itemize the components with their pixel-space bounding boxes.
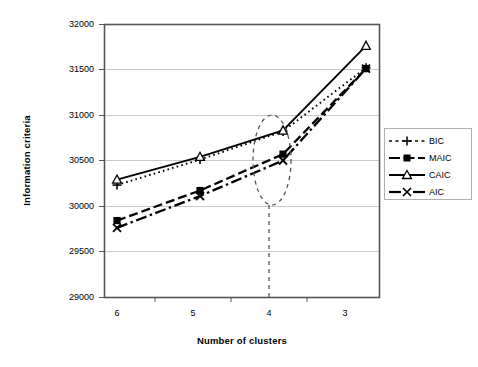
series-caic: [113, 41, 371, 183]
legend-item-maic: MAIC: [385, 149, 471, 166]
series-line-caic: [117, 46, 366, 180]
legend-key-maic: [388, 151, 426, 165]
series-line-bic: [117, 68, 366, 185]
legend-key-aic: [388, 185, 426, 199]
marker-maic-6: [113, 217, 120, 224]
gridlines: [104, 70, 379, 252]
marker-caic-3: [362, 41, 371, 49]
legend-key-caic: [388, 168, 426, 182]
chart-legend: BIC MAIC CAIC: [384, 128, 472, 200]
chart-figure: Information criteria 32000 31500 31000 3…: [0, 0, 478, 367]
y-axis-ticks: [99, 25, 104, 298]
marker-maic-4: [279, 151, 286, 158]
legend-item-bic: BIC: [385, 132, 471, 149]
legend-label-aic: AIC: [429, 187, 444, 197]
legend-item-aic: AIC: [385, 183, 471, 200]
legend-label-bic: BIC: [429, 136, 444, 146]
legend-label-caic: CAIC: [429, 170, 451, 180]
legend-key-bic: [388, 134, 426, 148]
series-line-aic: [117, 69, 366, 228]
legend-item-caic: CAIC: [385, 166, 471, 183]
legend-label-maic: MAIC: [429, 153, 452, 163]
